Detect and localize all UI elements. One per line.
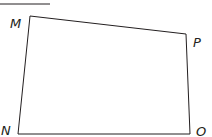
vertex-label-m: M [10,16,21,31]
quadrilateral-mpon [18,16,190,134]
vertex-label-p: P [193,35,201,50]
vertex-label-n: N [1,123,11,137]
vertex-label-o: O [196,124,206,137]
quadrilateral-diagram: M P O N [0,0,212,137]
